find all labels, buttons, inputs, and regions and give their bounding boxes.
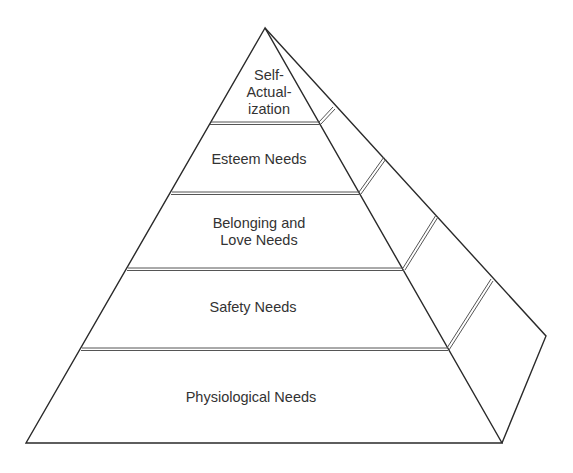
pyramid-side-face [265, 28, 546, 443]
label-safety: Safety Needs [209, 299, 296, 315]
separator-1 [210, 122, 320, 125]
level-esteem: Esteem Needs [211, 151, 306, 167]
side-separator-4 [447, 279, 493, 350]
separator-3 [127, 268, 404, 271]
separator-2 [171, 192, 360, 195]
label-belonging-line-1: Belonging and [213, 215, 306, 231]
side-separator-2 [359, 157, 386, 194]
level-safety: Safety Needs [209, 299, 296, 315]
side-separator-1 [319, 107, 335, 124]
label-physiological: Physiological Needs [186, 389, 317, 405]
level-physiological: Physiological Needs [186, 389, 317, 405]
side-face-outline [265, 28, 546, 443]
separator-4 [81, 348, 448, 351]
label-esteem: Esteem Needs [211, 151, 306, 167]
level-belonging: Belonging and Love Needs [213, 215, 306, 248]
label-self-actualization-line-3: ization [248, 101, 290, 117]
side-separator-3 [403, 215, 438, 270]
label-belonging-line-2: Love Needs [220, 232, 297, 248]
pyramid-diagram: Self- Actual- ization Esteem Needs Belon… [0, 0, 573, 473]
level-self-actualization: Self- Actual- ization [246, 67, 291, 117]
label-self-actualization-line-1: Self- [254, 67, 284, 83]
label-self-actualization-line-2: Actual- [246, 84, 291, 100]
side-separators [319, 107, 493, 350]
